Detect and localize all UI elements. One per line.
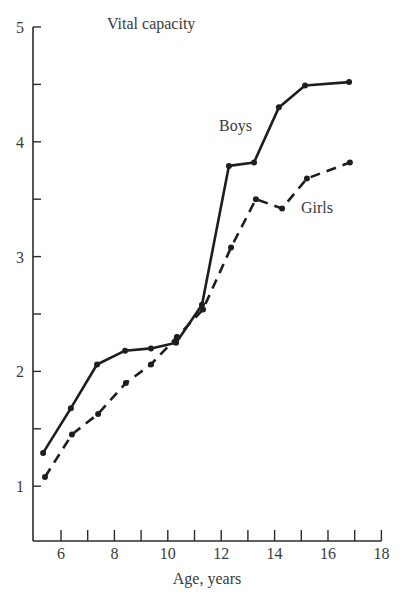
boys-data-point xyxy=(251,159,257,165)
boys-data-point xyxy=(302,83,308,89)
x-tick-label: 10 xyxy=(160,545,176,562)
boys-data-point xyxy=(226,163,232,169)
y-tick-label: 5 xyxy=(16,19,24,36)
boys-data-point xyxy=(148,345,154,351)
boys-data-point xyxy=(346,79,352,85)
y-tick-label: 4 xyxy=(16,134,24,151)
x-tick-label: 14 xyxy=(267,545,283,562)
boys-data-point xyxy=(94,362,100,368)
girls-data-point xyxy=(253,196,259,202)
girls-data-point xyxy=(228,244,234,250)
boys-data-point xyxy=(122,348,128,354)
boys-data-point xyxy=(276,104,282,110)
girls-data-point xyxy=(279,205,285,211)
girls-data-point xyxy=(123,380,129,386)
girls-data-point xyxy=(347,159,353,165)
boys-data-point xyxy=(68,405,74,411)
girls-series-label: Girls xyxy=(301,199,333,216)
x-tick-label: 16 xyxy=(320,545,336,562)
girls-data-point xyxy=(200,306,206,312)
boys-data-point xyxy=(40,450,46,456)
vital-capacity-chart: 12345681012141618 Vital capacity Age, ye… xyxy=(0,0,404,595)
series-group xyxy=(40,79,353,480)
boys-line xyxy=(43,82,349,453)
girls-data-point xyxy=(42,474,48,480)
x-tick-label: 6 xyxy=(57,545,65,562)
girls-data-point xyxy=(148,362,154,368)
y-tick-label: 2 xyxy=(16,363,24,380)
y-tick-label: 1 xyxy=(16,478,24,495)
x-tick-label: 18 xyxy=(373,545,389,562)
axes: 12345681012141618 xyxy=(16,19,389,562)
y-tick-label: 3 xyxy=(16,249,24,266)
x-tick-label: 12 xyxy=(213,545,229,562)
girls-data-point xyxy=(69,432,75,438)
x-tick-label: 8 xyxy=(110,545,118,562)
girls-data-point xyxy=(174,334,180,340)
boys-series-label: Boys xyxy=(219,117,252,135)
x-axis-label: Age, years xyxy=(173,570,241,588)
girls-data-point xyxy=(95,411,101,417)
girls-data-point xyxy=(304,176,310,182)
chart-title: Vital capacity xyxy=(107,15,195,33)
